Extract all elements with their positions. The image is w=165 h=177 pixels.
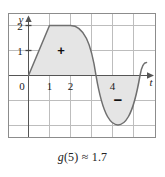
figure-container: y t 2 1 0 1 2 4 + − g(5) ≈ 1.7 [0,0,165,177]
caption-value-text: (5) ≈ 1.7 [64,150,107,164]
x-tick-label-1: 1 [47,80,53,92]
plot-area: y t 2 1 0 1 2 4 + − [8,13,156,138]
x-tick-label-0: 0 [19,80,25,92]
x-tick-label-2: 2 [68,80,74,92]
graph-svg: y t 2 1 0 1 2 4 + − [8,13,156,138]
y-tick-label-2: 2 [17,20,23,32]
figure-caption: g(5) ≈ 1.7 [0,150,165,165]
negative-sign-label: − [114,91,123,108]
positive-sign-label: + [57,43,65,58]
y-tick-label-1: 1 [17,45,23,57]
